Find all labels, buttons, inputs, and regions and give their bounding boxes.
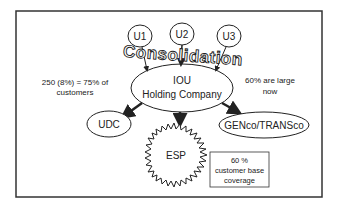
note-left-line1: 250 (8%) = 75% of [42, 78, 109, 87]
note-left-line2: customers [57, 88, 94, 97]
node-u2: U2 [170, 23, 194, 45]
box-line3: coverage [224, 176, 255, 185]
node-u3-label: U3 [223, 31, 236, 42]
node-esp: ESP [145, 123, 207, 187]
coverage-note-box: 60 % customer base coverage [210, 152, 269, 187]
edge-hub-genco [222, 103, 238, 112]
node-u1-label: U1 [134, 31, 147, 42]
note-right-line1: 60% are large [245, 76, 295, 85]
note-right-line2: now [263, 87, 278, 96]
node-u2-label: U2 [176, 29, 189, 40]
edge-hub-udc [124, 103, 142, 116]
node-udc: UDC [87, 111, 131, 137]
box-line1: 60 % [231, 156, 248, 165]
hub-label-line2: Holding Company [142, 89, 222, 100]
node-u3: U3 [217, 25, 241, 47]
consolidation-diagram: U1 U2 U3 Consolidation IOU Holding Compa… [0, 0, 338, 209]
hub-label-line1: IOU [173, 75, 191, 86]
node-esp-label: ESP [166, 150, 186, 161]
node-genco-label: GENco/TRANSco [224, 120, 304, 131]
node-iou-holding-company: IOU Holding Company [131, 64, 233, 112]
node-udc-label: UDC [98, 119, 120, 130]
node-genco-transco: GENco/TRANSco [219, 112, 309, 138]
box-line2: customer base [215, 166, 264, 175]
